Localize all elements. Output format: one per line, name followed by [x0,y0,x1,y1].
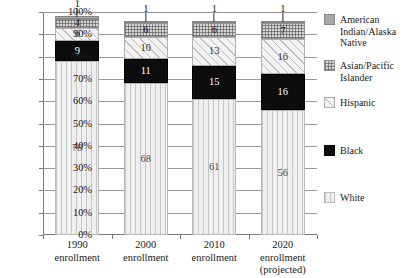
legend-item-label: Black [340,145,363,157]
legend-item-label: American Indian/Alaska Native [340,14,410,49]
bar-segment-value: 1 [212,4,217,13]
bar-segment[interactable]: 13 [192,37,236,66]
legend-item[interactable]: Hispanic [324,97,376,109]
x-axis-label: 1990enrollment [43,239,112,264]
bar-segment[interactable]: 56 [261,110,305,235]
y-axis-tick-label: 70% [73,74,92,84]
bar-segment[interactable]: 4 [55,19,99,28]
bar-group: 61151361 [180,12,249,235]
legend-item[interactable]: White [324,192,364,204]
bar-segment-value: 1 [143,4,148,13]
y-axis-tick-label: 90% [73,29,92,39]
bar-segment-value: 68 [141,154,152,164]
y-axis-tick-label: 80% [73,52,92,62]
x-axis-label-line: enrollment [249,252,318,265]
x-axis-label-line: 1990 [43,239,112,252]
bar-segment-value: 15 [209,77,220,87]
bar-segment-value: 4 [75,18,80,28]
bar-segment-value-callout: 1 [280,4,285,22]
x-axis-tick-mark [317,235,318,239]
bar-segment-value: 61 [209,162,220,172]
bar-segment[interactable]: 6 [124,23,168,36]
x-axis-label: 2000enrollment [112,239,181,264]
legend-swatch-hispanic [324,97,335,108]
x-axis-label-line: enrollment [180,252,249,265]
bar-segment[interactable] [192,21,236,23]
stacked-bar-chart: 789641681110616115136156161671 100%90%80… [0,0,410,278]
y-axis-tick-label: 40% [73,141,92,151]
y-axis-tick-label: 20% [73,185,92,195]
stacked-bar[interactable]: 68111061 [124,12,168,235]
x-axis-label-line: (projected) [249,264,318,277]
y-axis-tick-label: 100% [68,7,92,17]
y-axis-tick-label: 10% [73,208,92,218]
stacked-bar[interactable]: 56161671 [261,12,305,235]
bar-segment-value: 6 [143,25,148,35]
y-axis-tick-label: 30% [73,163,92,173]
x-axis-label: 2020enrollment(projected) [249,239,318,277]
bar-segment-value: 13 [209,46,220,56]
bar-segment[interactable]: 68 [124,83,168,235]
bar-segment-value: 16 [278,87,289,97]
legend-item-label: Asian/Pacific Islander [340,60,410,83]
bar-segment[interactable]: 61 [192,99,236,235]
bar-segment-value: 7 [280,26,285,36]
x-axis-label-line: 2000 [112,239,181,252]
x-axis-label-line: 2010 [180,239,249,252]
legend-item[interactable]: American Indian/Alaska Native [324,14,410,49]
bar-segment-value: 11 [141,66,151,76]
legend-swatch-white [324,192,335,203]
y-axis-tick-label: 50% [73,119,92,129]
bar-segment-value: 6 [212,25,217,35]
x-axis-labels: 1990enrollment2000enrollment2010enrollme… [43,239,317,278]
bar-segment-value: 1 [280,4,285,13]
x-axis-label-line: enrollment [112,252,181,265]
legend-swatch-asian [324,60,335,71]
bar-segment[interactable]: 11 [124,59,168,84]
legend-item[interactable]: Asian/Pacific Islander [324,60,410,83]
bar-segment-value: 56 [278,168,289,178]
stacked-bar[interactable]: 61151361 [192,12,236,235]
bar-segment-value: 10 [141,43,152,53]
x-axis-label: 2010enrollment [180,239,249,264]
legend-swatch-black [324,145,335,156]
x-axis-label-line: 2020 [249,239,318,252]
legend-item-label: Hispanic [340,97,376,109]
bar-segment-value: 16 [278,52,289,62]
bar-segment[interactable]: 10 [124,37,168,59]
legend-item[interactable]: Black [324,145,363,157]
x-axis-label-line: enrollment [43,252,112,265]
legend-item-label: White [340,192,364,204]
bar-segment[interactable]: 6 [192,23,236,36]
bar-segment[interactable] [261,21,305,23]
bar-segment-value-callout: 1 [143,4,148,22]
bar-segment[interactable]: 7 [261,23,305,39]
legend-swatch-native [324,14,335,25]
bar-group: 56161671 [249,12,318,235]
bar-segment[interactable]: 16 [261,39,305,75]
bar-segment[interactable] [124,21,168,23]
bar-segment[interactable]: 15 [192,66,236,99]
bar-segment-value-callout: 1 [212,4,217,22]
y-axis-tick-label: 60% [73,96,92,106]
bar-segment[interactable]: 16 [261,74,305,110]
bar-group: 68111061 [112,12,181,235]
